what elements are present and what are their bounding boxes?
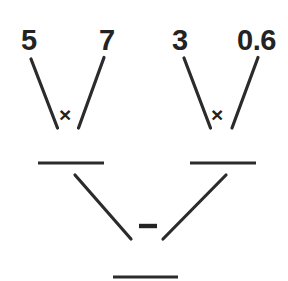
branch-line-bottom-right	[163, 175, 226, 239]
branch-line-bottom-left	[75, 175, 131, 239]
operand-top-left-a: 5	[21, 26, 37, 55]
branch-line-right-a	[184, 58, 211, 128]
multiply-operator-left: ×	[59, 104, 71, 125]
math-factor-tree-diagram: 5 7 3 0.6 × ×	[0, 0, 288, 281]
multiply-operator-right: ×	[211, 104, 223, 125]
branch-line-right-b	[232, 58, 258, 129]
operand-top-left-b: 7	[99, 26, 115, 55]
operand-top-right-b: 0.6	[237, 26, 276, 55]
branch-line-left-a	[31, 59, 58, 128]
operand-top-right-a: 3	[172, 26, 188, 55]
branch-line-left-b	[79, 58, 105, 129]
